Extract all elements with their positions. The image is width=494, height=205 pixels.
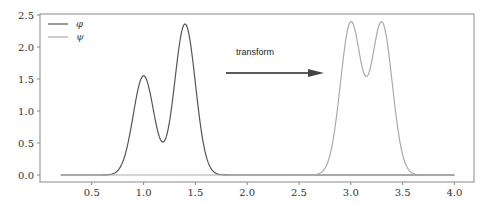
y-tick-label: 0.0 bbox=[18, 170, 34, 181]
chart-canvas: 0.51.01.52.02.53.03.54.0 0.00.51.01.52.0… bbox=[0, 0, 494, 205]
legend-psi-label: ψ bbox=[76, 31, 84, 42]
legend: φ ψ bbox=[48, 18, 84, 42]
arrow-head-icon bbox=[308, 69, 324, 77]
x-tick-label: 3.5 bbox=[395, 187, 411, 198]
y-tick-label: 2.5 bbox=[18, 10, 34, 21]
x-tick-label: 0.5 bbox=[84, 187, 100, 198]
y-tick-label: 1.0 bbox=[18, 106, 34, 117]
x-tick-label: 2.5 bbox=[291, 187, 307, 198]
y-axis: 0.00.51.01.52.02.5 bbox=[18, 10, 40, 181]
x-tick-label: 1.0 bbox=[136, 187, 152, 198]
x-tick-label: 3.0 bbox=[343, 187, 359, 198]
x-tick-label: 1.5 bbox=[187, 187, 203, 198]
plot-curves bbox=[61, 22, 455, 175]
axes-frame bbox=[40, 14, 474, 182]
x-tick-label: 2.0 bbox=[239, 187, 255, 198]
x-axis: 0.51.01.52.02.53.03.54.0 bbox=[84, 182, 463, 198]
y-tick-label: 2.0 bbox=[18, 42, 34, 53]
transform-label: transform bbox=[236, 47, 274, 57]
legend-phi-label: φ bbox=[76, 18, 83, 29]
x-tick-label: 4.0 bbox=[446, 187, 462, 198]
series-line-psi bbox=[61, 22, 455, 175]
y-tick-label: 1.5 bbox=[18, 74, 34, 85]
y-tick-label: 0.5 bbox=[18, 138, 34, 149]
transform-annotation: transform bbox=[226, 47, 324, 77]
